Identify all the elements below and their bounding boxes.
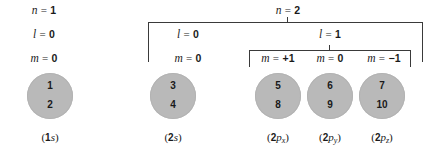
m-2s-equals: = [186,52,192,64]
label-m-2py: m = 0 [316,52,343,64]
subshell-n2-l1-symbol: l [319,28,322,40]
m-2py-equals: = [328,52,334,64]
caption-2pz-close: ) [389,131,393,143]
label-subshell-n2-l1: l = 1 [319,28,341,40]
m-2px-equals: = [273,52,279,64]
shell-n1-equals: = [41,4,47,16]
orbital-2pz: 7 10 [359,73,405,119]
label-subshell-n1-l0: l = 0 [33,28,55,40]
m-2s-value: 0 [196,52,202,64]
subshell-n2-l1-value: 1 [335,28,341,40]
m-2px-symbol: m [261,52,270,64]
m-1s-value: 0 [52,52,58,64]
m-2py-value: 0 [338,52,344,64]
electron-number: 8 [255,99,301,110]
caption-2s: (2s) [164,131,181,143]
caption-2py: (2py) [319,131,341,145]
m-2pz-symbol: m [367,52,376,64]
quantum-number-diagram: n = 1 n = 2 l = 0 l = 0 l = 1 m = 0 m = … [0,0,437,156]
m-1s-symbol: m [30,52,39,64]
shell-n1-value: 1 [50,4,56,16]
caption-1s: (1s) [41,131,58,143]
electron-number: 10 [359,99,405,110]
m-2pz-equals: = [379,52,385,64]
m-2px-value: +1 [282,52,294,64]
electron-number: 5 [255,80,301,91]
subshell-n2-l0-symbol: l [177,28,180,40]
label-shell-n1: n = 1 [32,4,57,16]
label-m-2pz: m = −1 [367,52,401,64]
electron-number: 2 [27,99,73,110]
electron-number: 3 [150,80,196,91]
label-m-1s: m = 0 [30,52,57,64]
shell-n1-symbol: n [32,4,38,16]
subshell-n1-l0-symbol: l [33,28,36,40]
caption-2px: (2px) [267,131,289,145]
subshell-n2-l1-equals: = [325,28,331,40]
subshell-n2-l0-equals: = [183,28,189,40]
subshell-n1-l0-value: 0 [49,28,55,40]
subshell-n1-l0-equals: = [39,28,45,40]
caption-2pz: (2pz) [371,131,393,145]
orbital-2s: 3 4 [150,73,196,119]
caption-2py-close: ) [337,131,341,143]
electron-number: 6 [307,80,353,91]
electron-number: 9 [307,99,353,110]
electron-number: 1 [27,80,73,91]
shell-n2-symbol: n [276,4,282,16]
label-m-2s: m = 0 [174,52,201,64]
electron-number: 7 [359,80,405,91]
m-2s-symbol: m [174,52,183,64]
electron-number: 4 [150,99,196,110]
caption-2s-close: ) [178,131,182,143]
shell-n2-value: 2 [294,4,300,16]
subshell-n2-l0-value: 0 [193,28,199,40]
label-m-2px: m = +1 [261,52,295,64]
caption-2px-close: ) [285,131,289,143]
orbital-2py: 6 9 [307,73,353,119]
m-2pz-value: −1 [388,52,400,64]
orbital-1s: 1 2 [27,73,73,119]
m-1s-equals: = [42,52,48,64]
label-subshell-n2-l0: l = 0 [177,28,199,40]
label-shell-n2: n = 2 [276,4,301,16]
m-2py-symbol: m [316,52,325,64]
orbital-2px: 5 8 [255,73,301,119]
caption-1s-close: ) [55,131,59,143]
shell-n2-equals: = [285,4,291,16]
